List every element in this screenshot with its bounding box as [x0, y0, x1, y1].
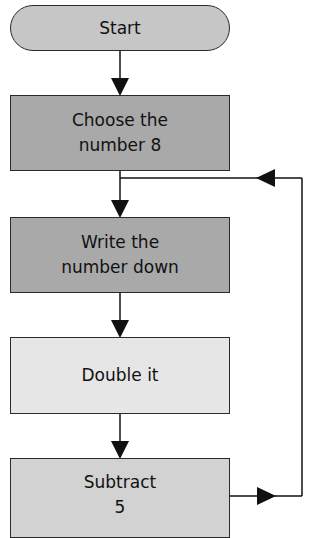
node-label-line: Double it [81, 363, 158, 388]
double-it-node: Double it [10, 337, 230, 414]
node-label-line: number 8 [79, 133, 162, 158]
write-number-node: Write the number down [10, 217, 230, 293]
arrow-down-icon [111, 200, 129, 218]
arrow-left-icon [256, 169, 275, 187]
node-label-line: 5 [115, 495, 126, 520]
node-label-line: Write the [81, 230, 159, 255]
arrow-right-icon [257, 487, 276, 505]
choose-number-node: Choose the number 8 [10, 95, 230, 171]
start-node: Start [10, 5, 230, 51]
node-label-line: Choose the [72, 108, 168, 133]
node-label-line: number down [61, 255, 179, 280]
subtract-node: Subtract 5 [10, 458, 230, 538]
start-label: Start [99, 16, 141, 41]
arrow-down-icon [111, 320, 129, 338]
node-label-line: Subtract [84, 470, 156, 495]
arrow-down-icon [111, 441, 129, 459]
arrow-down-icon [111, 78, 129, 96]
